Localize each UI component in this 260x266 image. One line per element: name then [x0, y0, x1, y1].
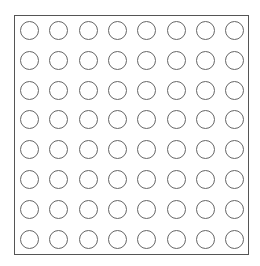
board-cell-r5-c0[interactable]: [20, 170, 39, 189]
board-cell-r0-c5[interactable]: [167, 21, 186, 40]
board-cell-r5-c5[interactable]: [167, 170, 186, 189]
board-cell-r7-c5[interactable]: [167, 230, 186, 249]
board-cell-r2-c1[interactable]: [49, 81, 68, 100]
board-cell-r4-c6[interactable]: [196, 140, 215, 159]
board-cell-r2-c2[interactable]: [79, 81, 98, 100]
board-cell-r7-c4[interactable]: [137, 230, 156, 249]
board-cell-r1-c5[interactable]: [167, 51, 186, 70]
board-cell-r0-c0[interactable]: [20, 21, 39, 40]
board-cell-r1-c7[interactable]: [225, 51, 244, 70]
board-cell-r1-c4[interactable]: [137, 51, 156, 70]
board-cell-r7-c0[interactable]: [20, 230, 39, 249]
board-cell-r1-c0[interactable]: [20, 51, 39, 70]
board-cell-r0-c3[interactable]: [108, 21, 127, 40]
board-cell-r7-c6[interactable]: [196, 230, 215, 249]
board-cell-r7-c3[interactable]: [108, 230, 127, 249]
board-cell-r5-c3[interactable]: [108, 170, 127, 189]
board-cell-r3-c5[interactable]: [167, 110, 186, 129]
board-cell-r4-c5[interactable]: [167, 140, 186, 159]
board-cell-r0-c6[interactable]: [196, 21, 215, 40]
board-cell-r1-c6[interactable]: [196, 51, 215, 70]
board-cell-r2-c4[interactable]: [137, 81, 156, 100]
board-cell-r4-c3[interactable]: [108, 140, 127, 159]
game-board: [14, 15, 249, 255]
board-cell-r1-c3[interactable]: [108, 51, 127, 70]
board-cell-r5-c7[interactable]: [225, 170, 244, 189]
board-cell-r2-c0[interactable]: [20, 81, 39, 100]
board-cell-r0-c7[interactable]: [225, 21, 244, 40]
board-cell-r6-c3[interactable]: [108, 200, 127, 219]
board-cell-r7-c1[interactable]: [49, 230, 68, 249]
board-cell-r1-c1[interactable]: [49, 51, 68, 70]
board-cell-r6-c2[interactable]: [79, 200, 98, 219]
board-cell-r0-c2[interactable]: [79, 21, 98, 40]
board-cell-r6-c4[interactable]: [137, 200, 156, 219]
board-cell-r6-c0[interactable]: [20, 200, 39, 219]
board-cell-r6-c7[interactable]: [225, 200, 244, 219]
board-cell-r2-c7[interactable]: [225, 81, 244, 100]
board-cell-r6-c1[interactable]: [49, 200, 68, 219]
board-cell-r2-c6[interactable]: [196, 81, 215, 100]
board-cell-r7-c7[interactable]: [225, 230, 244, 249]
board-cell-r6-c5[interactable]: [167, 200, 186, 219]
board-cell-r7-c2[interactable]: [79, 230, 98, 249]
board-cell-r4-c2[interactable]: [79, 140, 98, 159]
board-cell-r1-c2[interactable]: [79, 51, 98, 70]
board-cell-r3-c2[interactable]: [79, 110, 98, 129]
board-cell-r2-c3[interactable]: [108, 81, 127, 100]
board-cell-r2-c5[interactable]: [167, 81, 186, 100]
board-cell-r6-c6[interactable]: [196, 200, 215, 219]
board-cell-r5-c6[interactable]: [196, 170, 215, 189]
board-cell-r5-c2[interactable]: [79, 170, 98, 189]
